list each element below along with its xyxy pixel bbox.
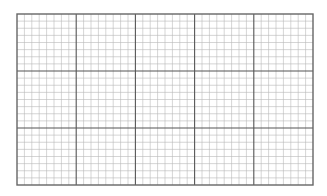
graph-paper-grid [0, 0, 327, 196]
